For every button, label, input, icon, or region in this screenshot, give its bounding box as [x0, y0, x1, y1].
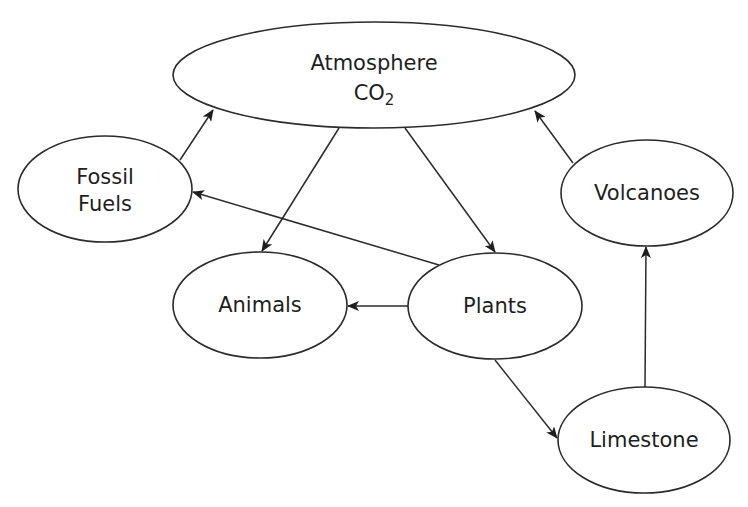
- volcanoes-label: Volcanoes: [594, 181, 700, 205]
- arrow-fossil-fuels-to-atmosphere: [180, 110, 213, 160]
- atmosphere-label: Atmosphere: [310, 51, 437, 75]
- arrow-plants-to-limestone: [495, 360, 557, 438]
- atmosphere-ellipse: [173, 22, 575, 128]
- carbon-cycle-diagram: Atmosphere CO2 Fossil Fuels Volcanoes An…: [0, 0, 748, 507]
- plants-label: Plants: [463, 294, 527, 318]
- node-volcanoes: Volcanoes: [561, 140, 733, 246]
- node-atmosphere: Atmosphere CO2: [173, 22, 575, 128]
- animals-label: Animals: [218, 293, 302, 317]
- arrow-atmosphere-to-plants: [405, 128, 495, 252]
- fossil-label: Fossil: [76, 165, 134, 189]
- limestone-label: Limestone: [589, 428, 698, 452]
- node-fossil-fuels: Fossil Fuels: [18, 136, 192, 242]
- arrow-limestone-to-volcanoes: [645, 247, 646, 387]
- arrow-volcanoes-to-atmosphere: [535, 111, 573, 163]
- fuels-label: Fuels: [78, 192, 132, 216]
- arrow-plants-to-fossil-fuels: [193, 192, 439, 265]
- node-plants: Plants: [408, 253, 582, 359]
- node-limestone: Limestone: [558, 387, 730, 493]
- node-animals: Animals: [173, 252, 347, 358]
- fossil-fuels-ellipse: [18, 136, 192, 242]
- nodes-group: Atmosphere CO2 Fossil Fuels Volcanoes An…: [18, 22, 733, 493]
